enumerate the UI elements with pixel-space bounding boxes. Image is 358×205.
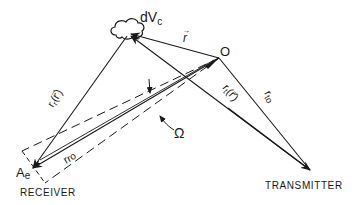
- origin-label: O: [220, 44, 230, 59]
- vector-r-arrow-glyph: →: [182, 26, 190, 35]
- vector-r-ro: [33, 58, 219, 168]
- transmitter-caption: TRANSMITTER: [265, 180, 343, 191]
- bistatic-geometry-diagram: dVc r → Ω O rr(r⃗) rro rt: [0, 0, 358, 205]
- vector-r-to: [219, 58, 310, 170]
- beam-edge-lower: [45, 58, 219, 183]
- receiver-caption: RECEIVER: [20, 187, 76, 198]
- solid-angle-label: Ω: [174, 125, 184, 141]
- beam-axis-line: [40, 60, 214, 160]
- vector-r-ro-label: rro: [61, 149, 78, 166]
- vector-r-to-label: rto: [260, 88, 278, 104]
- vector-to-transmitter: [228, 108, 310, 170]
- volume-element-label: dVc: [140, 9, 162, 27]
- vector-r-t-label: rt(r⃗): [219, 82, 241, 105]
- vector-r-r-label: rr(r⃗): [45, 87, 67, 110]
- solid-angle-leader: [160, 116, 174, 130]
- receiver-aperture-label: Ae: [16, 165, 31, 181]
